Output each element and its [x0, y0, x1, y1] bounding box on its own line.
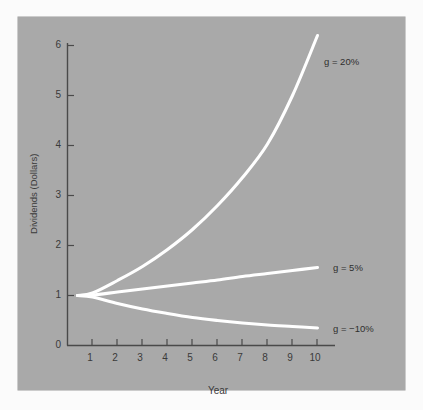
- figure-container: 0 1 2 3 4 5 6 1 2 3 4 5 6 7 8 9 10 Divid…: [0, 0, 423, 410]
- x-axis-ticks: [92, 339, 317, 346]
- curve-gneg10: [78, 296, 318, 329]
- curve-g20: [78, 36, 318, 296]
- y-axis-ticks: [68, 46, 75, 296]
- data-curves: [78, 36, 318, 329]
- plot-svg: [0, 0, 423, 410]
